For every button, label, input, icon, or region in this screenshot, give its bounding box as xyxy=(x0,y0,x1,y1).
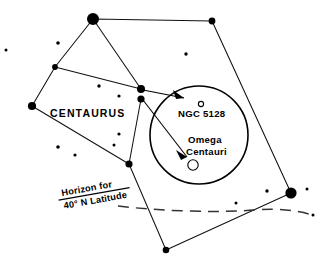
field-star-10 xyxy=(265,189,268,192)
ngc-5128-marker xyxy=(198,101,203,106)
star-top-right-vertex xyxy=(209,18,216,25)
star-chart-figure: CENTAURUS NGC 5128 Omega Centauri Horizo… xyxy=(0,0,322,267)
label-omega-centauri-line2: Centauri xyxy=(186,146,227,157)
bright-stars xyxy=(28,13,297,253)
label-ngc-5128: NGC 5128 xyxy=(178,108,226,119)
field-star-6 xyxy=(113,144,116,147)
star-hub-lower xyxy=(137,95,144,102)
star-top-vertex xyxy=(87,13,99,25)
field-star-1 xyxy=(5,49,8,52)
label-centaurus: CENTAURUS xyxy=(50,107,126,119)
field-star-9 xyxy=(184,52,187,55)
star-west-vertex xyxy=(28,102,36,110)
star-south-vertex xyxy=(163,247,170,254)
chart-labels: CENTAURUS NGC 5128 Omega Centauri Horizo… xyxy=(50,107,227,211)
constellation-stick-figure xyxy=(32,19,291,250)
field-star-3 xyxy=(97,84,100,87)
field-star-13 xyxy=(312,214,315,217)
constellation-extra-segments xyxy=(55,19,141,164)
star-lower-mid-vertex xyxy=(125,160,132,167)
field-stars xyxy=(5,41,315,216)
field-star-2 xyxy=(56,41,60,45)
star-hub-upper xyxy=(137,85,145,93)
field-star-12 xyxy=(306,188,309,191)
star-branch-vertex xyxy=(52,64,58,70)
field-star-7 xyxy=(56,145,60,149)
star-east-bright xyxy=(285,187,296,198)
sky-canvas: CENTAURUS NGC 5128 Omega Centauri Horizo… xyxy=(0,0,322,267)
field-star-4 xyxy=(117,94,120,97)
field-star-11 xyxy=(235,202,238,205)
segment-hub-to-lower xyxy=(129,99,141,164)
label-omega-centauri-line1: Omega xyxy=(188,134,222,145)
field-star-8 xyxy=(73,153,76,156)
omega-centauri-marker xyxy=(188,160,198,170)
field-star-5 xyxy=(117,132,120,135)
constellation-outline xyxy=(32,19,291,250)
